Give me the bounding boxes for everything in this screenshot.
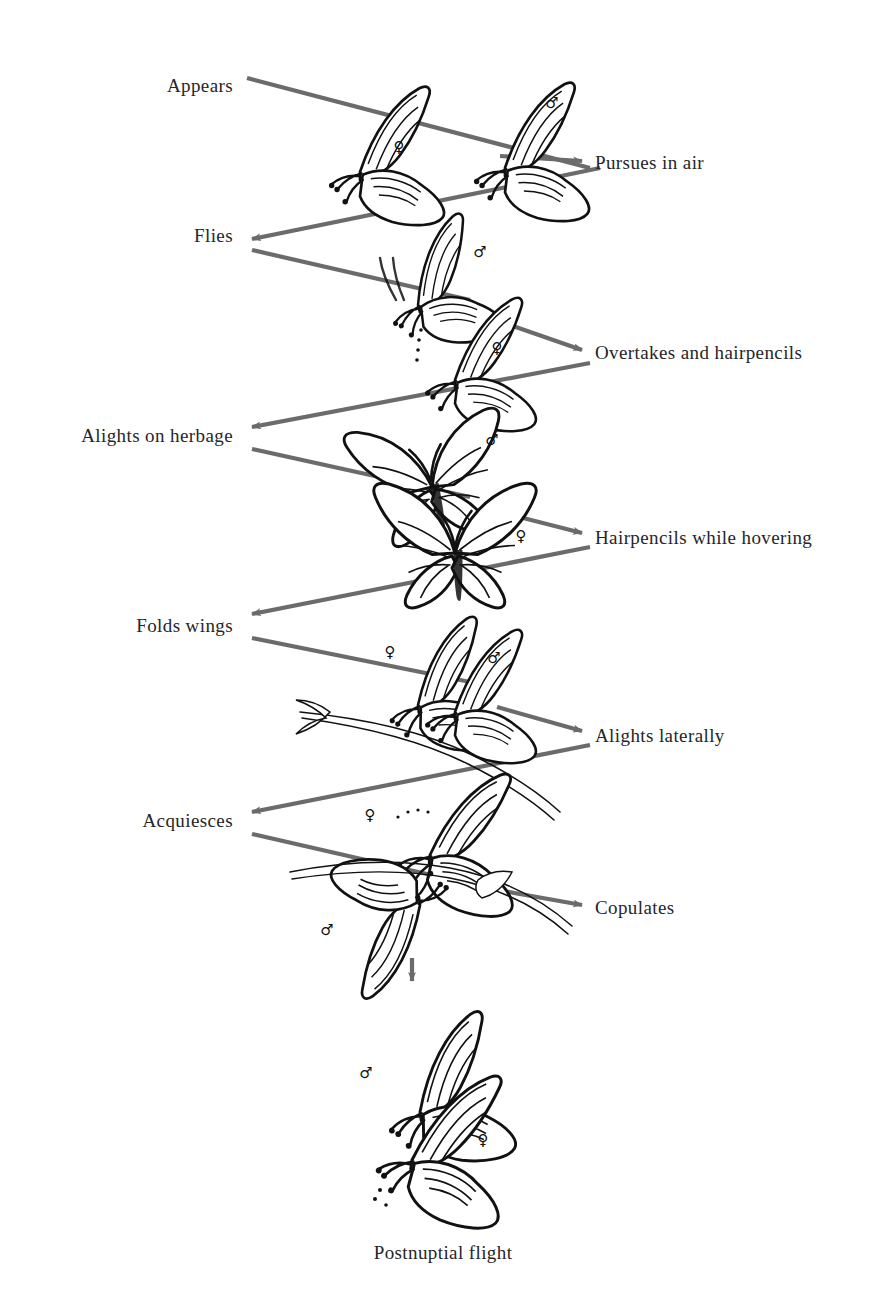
- step-label-alights-on-herbage: Alights on herbage: [0, 426, 233, 445]
- female-symbol-icon: ♀: [394, 140, 405, 155]
- step-label-overtakes-and-hairpencils: Overtakes and hairpencils: [595, 343, 802, 362]
- step-label-folds-wings: Folds wings: [0, 616, 233, 635]
- female-symbol-icon: ♀: [365, 808, 376, 823]
- male-symbol-icon: ♂: [487, 651, 500, 666]
- flow-arrows-and-illustrations: [0, 0, 887, 1308]
- female-symbol-icon: ♀: [478, 1133, 489, 1148]
- diagram-canvas: Appears Pursues in air Flies Overtakes a…: [0, 0, 887, 1308]
- male-symbol-icon: ♂: [359, 1066, 372, 1081]
- illustration-scene-3-hovering: [343, 407, 536, 608]
- male-symbol-icon: ♂: [320, 923, 333, 938]
- male-symbol-icon: ♂: [485, 433, 498, 448]
- female-symbol-icon: ♀: [516, 529, 527, 544]
- female-symbol-icon: ♀: [385, 645, 396, 660]
- illustration-scene-6-postnuptial: [370, 1009, 518, 1232]
- illustration-scene-5-copulation: [290, 764, 572, 1001]
- step-label-appears: Appears: [0, 76, 233, 95]
- step-label-acquiesces: Acquiesces: [0, 811, 233, 830]
- step-label-pursues-in-air: Pursues in air: [595, 153, 704, 172]
- step-label-alights-laterally: Alights laterally: [595, 726, 725, 745]
- step-label-flies: Flies: [0, 226, 233, 245]
- illustration-scene-4-lateral: [296, 615, 560, 820]
- caption-postnuptial-flight: Postnuptial flight: [374, 1243, 513, 1262]
- step-label-hairpencils-while-hovering: Hairpencils while hovering: [595, 528, 812, 547]
- male-symbol-icon: ♂: [473, 245, 486, 260]
- step-label-copulates: Copulates: [595, 898, 675, 917]
- male-symbol-icon: ♂: [545, 96, 558, 111]
- female-symbol-icon: ♀: [492, 341, 503, 356]
